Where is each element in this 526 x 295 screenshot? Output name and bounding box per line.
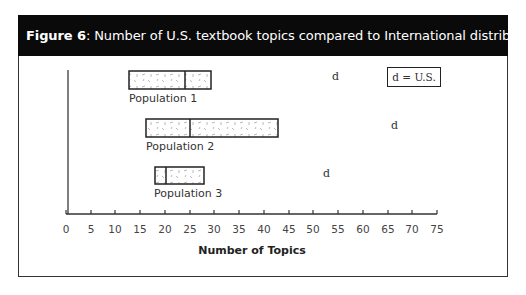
population-1-label: Population 1: [129, 92, 197, 105]
x-tick-label: 5: [88, 223, 95, 235]
x-tick-label: 70: [405, 223, 418, 235]
x-tick-label: 20: [158, 223, 171, 235]
us-marker-population-2: d: [391, 119, 398, 132]
x-tick-label: 50: [306, 223, 319, 235]
population-3-label: Population 3: [154, 187, 222, 200]
us-marker-population-3: d: [323, 167, 330, 180]
x-tick-label: 15: [133, 223, 146, 235]
legend-box: d = U.S.: [387, 67, 441, 87]
us-marker-population-1: d: [332, 70, 339, 83]
x-tick-label: 10: [108, 223, 121, 235]
x-tick-label: 40: [257, 223, 270, 235]
x-tick-label: 0: [63, 223, 70, 235]
population-2-label: Population 2: [146, 140, 214, 153]
x-tick-label: 25: [183, 223, 196, 235]
x-axis-title: Number of Topics: [192, 244, 312, 257]
x-tick-label: 65: [381, 223, 394, 235]
population-3-box: [155, 167, 204, 184]
population-1-box: [129, 71, 211, 89]
x-tick-label: 30: [207, 223, 220, 235]
x-tick-label: 35: [232, 223, 245, 235]
x-tick-label: 75: [430, 223, 443, 235]
x-tick-label: 45: [282, 223, 295, 235]
x-tick-label: 55: [331, 223, 344, 235]
population-2-box: [146, 119, 278, 137]
legend-text: d = U.S.: [392, 71, 436, 83]
x-tick-label: 60: [356, 223, 369, 235]
